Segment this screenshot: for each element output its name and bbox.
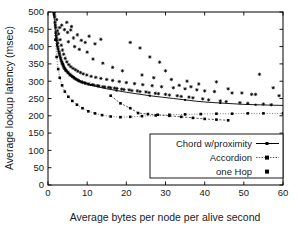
y-axis-tick-labels: 050100150200250300350400450500 (28, 6, 44, 190)
data-point (225, 100, 228, 103)
data-point (97, 84, 100, 87)
data-point (64, 57, 67, 60)
data-point (76, 33, 79, 36)
data-point (250, 93, 253, 96)
data-point (65, 60, 68, 63)
data-point (178, 84, 181, 87)
y-tick-label: 450 (28, 24, 44, 35)
data-point (76, 103, 79, 106)
data-point (81, 107, 84, 110)
y-tick-label: 50 (33, 162, 44, 173)
data-point (144, 90, 147, 93)
data-point (138, 90, 141, 93)
data-point (192, 117, 195, 120)
data-point (215, 118, 218, 121)
data-point (164, 69, 167, 72)
data-point (164, 93, 167, 96)
data-point (240, 91, 243, 94)
data-point (272, 86, 275, 89)
data-point (187, 95, 190, 98)
figure-container: 050100150200250300350400450500 010203040… (0, 0, 298, 226)
x-tick-label: 20 (121, 187, 132, 198)
y-tick-label: 200 (28, 110, 44, 121)
data-point (133, 82, 136, 85)
data-point (116, 90, 118, 92)
data-point (191, 96, 194, 99)
data-point (103, 85, 106, 88)
data-point (72, 36, 75, 39)
data-point (180, 116, 183, 119)
data-point (109, 94, 112, 97)
data-point (203, 118, 206, 121)
data-point (53, 21, 56, 24)
y-axis-title: Average lookup latency (msec) (3, 26, 15, 170)
legend: Chord w/proximity Accordion one Hop (150, 134, 283, 178)
data-point (53, 11, 56, 14)
data-point (91, 57, 94, 60)
data-point (99, 38, 102, 41)
data-point (254, 93, 257, 96)
data-point (109, 115, 112, 118)
data-point (73, 45, 76, 48)
data-point (85, 73, 88, 76)
chart-svg: 050100150200250300350400450500 010203040… (0, 0, 298, 226)
data-point (246, 112, 249, 115)
data-point (78, 48, 81, 51)
data-point (230, 91, 233, 94)
data-point (156, 113, 159, 116)
data-point (183, 87, 186, 90)
data-point (111, 66, 114, 69)
y-tick-label: 150 (28, 127, 44, 138)
legend-label-one-hop: one Hop (216, 166, 252, 177)
data-point (231, 112, 234, 115)
data-point (64, 90, 67, 93)
data-point (93, 84, 96, 87)
data-point (99, 77, 102, 80)
data-point (158, 60, 161, 63)
data-point (85, 50, 88, 53)
data-point (149, 95, 151, 97)
legend-label-chord-w-proximity: Chord w/proximity (176, 138, 252, 149)
data-point (129, 116, 132, 119)
data-point (219, 102, 221, 104)
data-point (80, 39, 83, 42)
data-point (184, 99, 186, 101)
legend-marker-one-hop (265, 170, 269, 174)
data-point (66, 31, 69, 34)
data-point (179, 95, 182, 98)
data-point (195, 88, 198, 91)
y-tick-label: 500 (28, 6, 44, 17)
data-point (69, 65, 72, 68)
data-point (55, 56, 58, 59)
data-point (62, 53, 65, 56)
data-point (129, 107, 132, 110)
x-axis-tick-labels: 0102030405060 (45, 187, 288, 198)
data-point (71, 100, 74, 103)
data-point (170, 78, 173, 81)
data-point (67, 95, 70, 98)
data-point (172, 86, 175, 89)
data-point (148, 55, 151, 58)
data-point (82, 72, 85, 75)
data-point (61, 48, 64, 51)
data-point (168, 93, 171, 96)
data-point (203, 89, 206, 92)
x-tick-label: 10 (82, 187, 93, 198)
data-point (141, 83, 144, 86)
data-point (226, 87, 229, 90)
y-tick-label: 300 (28, 76, 44, 87)
data-point (168, 115, 171, 118)
data-point (54, 26, 57, 29)
x-tick-label: 30 (160, 187, 171, 198)
data-point (147, 113, 150, 116)
data-point (140, 73, 143, 76)
data-point (246, 102, 249, 105)
data-point (122, 88, 125, 91)
data-point (176, 94, 179, 97)
data-point (201, 97, 204, 100)
x-axis-title: Average bytes per node per alive second (70, 211, 261, 223)
data-point (207, 98, 210, 101)
data-point (57, 32, 60, 35)
data-point (54, 38, 57, 41)
data-point (55, 18, 58, 21)
